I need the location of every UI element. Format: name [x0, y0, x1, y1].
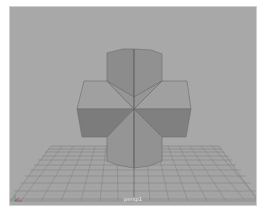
- scene-render[interactable]: [10, 7, 257, 206]
- 3d-viewport[interactable]: persp1: [9, 6, 257, 206]
- camera-name-label: persp1: [10, 196, 256, 202]
